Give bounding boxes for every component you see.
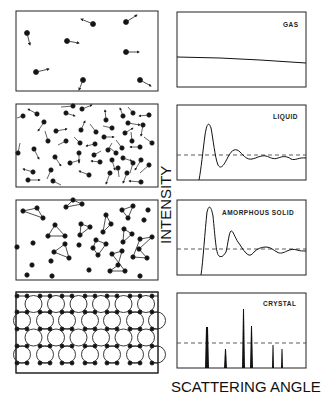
amorphous-solid-label: AMORPHOUS SOLID	[222, 209, 294, 216]
crystal-label: CRYSTAL	[263, 300, 296, 307]
liquid-intensity-plot: LIQUID	[177, 105, 306, 180]
x-axis-label: SCATTERING ANGLE	[171, 378, 321, 395]
diagram-canvas: GAS	[0, 0, 321, 400]
y-axis-label: INTENSITY	[157, 166, 174, 244]
liquid-label: LIQUID	[273, 113, 298, 121]
crystal-structure-panel	[14, 292, 166, 373]
liquid-structure-panel	[16, 104, 158, 187]
gas-intensity-plot: GAS	[177, 12, 306, 87]
gas-structure-panel	[16, 11, 158, 91]
amorphous-intensity-plot: AMORPHOUS SOLID	[177, 200, 306, 275]
gas-label: GAS	[283, 21, 299, 28]
amorphous-structure-panel	[15, 198, 158, 280]
crystal-intensity-plot: CRYSTAL	[177, 293, 306, 368]
